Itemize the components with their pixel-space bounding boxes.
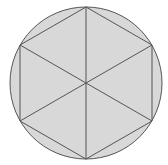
- circle-hexagon-diagram: [0, 0, 168, 165]
